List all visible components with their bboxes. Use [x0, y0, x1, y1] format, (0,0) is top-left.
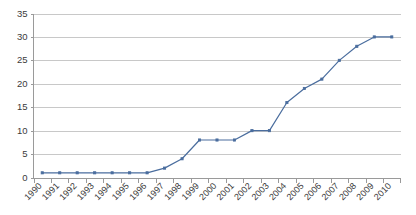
y-tick-label: 30	[17, 31, 28, 42]
data-point-1996	[146, 172, 148, 174]
data-markers	[41, 36, 393, 174]
x-tick-label: 1998	[162, 181, 183, 202]
x-tick-label: 2000	[197, 181, 218, 202]
line-chart: 05101520253035 1990199119921993199419951…	[0, 0, 416, 215]
data-point-2010	[391, 36, 393, 38]
y-tick-label: 5	[22, 148, 27, 159]
x-tick-label: 1999	[180, 181, 201, 202]
x-tick-label: 2008	[337, 181, 358, 202]
x-tick-label: 2006	[302, 181, 323, 202]
y-tick-labels: 05101520253035	[17, 8, 28, 183]
x-tick-label: 1990	[22, 181, 43, 202]
y-axis	[31, 14, 34, 179]
y-tick-label: 35	[17, 8, 28, 19]
data-point-1995	[129, 172, 131, 174]
data-point-2007	[338, 59, 340, 61]
x-tick-label: 1997	[145, 181, 166, 202]
y-tick-label: 10	[17, 125, 28, 136]
x-tick-label: 1992	[57, 181, 78, 202]
data-point-2006	[321, 78, 323, 80]
y-tick-label: 0	[22, 172, 27, 183]
data-point-1993	[94, 172, 96, 174]
data-point-1990	[41, 172, 43, 174]
data-point-2002	[251, 130, 253, 132]
data-point-1991	[59, 172, 61, 174]
x-tick-label: 2005	[285, 181, 306, 202]
data-series	[42, 37, 392, 173]
data-point-2005	[303, 87, 305, 89]
y-tick-label: 20	[17, 78, 28, 89]
series-line	[42, 37, 392, 173]
data-point-1997	[163, 167, 165, 169]
x-tick-label: 1994	[92, 181, 113, 202]
x-tick-label: 2004	[267, 181, 288, 202]
x-tick-label: 2009	[354, 181, 375, 202]
y-tick-label: 15	[17, 101, 28, 112]
x-tick-label: 1993	[75, 181, 96, 202]
data-point-2008	[356, 45, 358, 47]
x-tick-label: 1995	[110, 181, 131, 202]
data-point-2004	[286, 101, 288, 103]
x-tick-label: 1996	[127, 181, 148, 202]
x-tick-label: 2003	[250, 181, 271, 202]
x-tick-label: 1991	[40, 181, 61, 202]
data-point-2009	[373, 36, 375, 38]
gridlines	[34, 15, 401, 179]
data-point-2003	[268, 130, 270, 132]
x-tick-labels: 1990199119921993199419951996199719981999…	[22, 181, 393, 202]
data-point-1999	[198, 139, 200, 141]
data-point-2000	[216, 139, 218, 141]
x-tick-label: 2002	[232, 181, 253, 202]
data-point-1994	[111, 172, 113, 174]
x-tick-label: 2001	[215, 181, 236, 202]
y-tick-label: 25	[17, 54, 28, 65]
x-tick-label: 2007	[320, 181, 341, 202]
data-point-1992	[76, 172, 78, 174]
data-point-2001	[233, 139, 235, 141]
x-tick-label: 2010	[372, 181, 393, 202]
data-point-1998	[181, 158, 183, 160]
chart-canvas: 05101520253035 1990199119921993199419951…	[0, 0, 416, 215]
